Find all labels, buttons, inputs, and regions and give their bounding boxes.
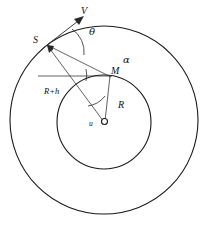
label-angle-alpha: α <box>123 54 130 65</box>
label-angle-theta: θ <box>89 26 95 37</box>
center-point-o <box>102 119 108 125</box>
label-center-u: u <box>89 119 93 128</box>
label-point-m: M <box>110 65 120 76</box>
diagram-canvas: V θ α S M R+h R u <box>0 0 207 227</box>
label-velocity-v: V <box>81 5 89 16</box>
segment-s-to-center <box>47 45 104 122</box>
label-radius-outer-rh: R+h <box>43 86 59 96</box>
segment-m-to-center <box>105 76 110 121</box>
segment-s-to-m <box>47 45 111 77</box>
velocity-arrowhead-icon <box>74 16 84 25</box>
label-point-s: S <box>33 34 38 45</box>
angle-arc-alpha <box>86 69 87 81</box>
label-radius-inner-r: R <box>117 99 124 110</box>
orbital-geometry-diagram: V θ α S M R+h R u <box>0 0 207 227</box>
angle-arc-theta <box>72 29 84 55</box>
